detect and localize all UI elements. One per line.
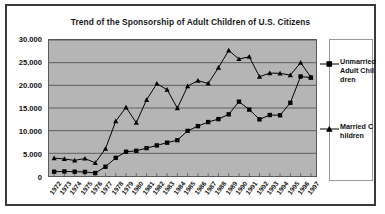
legend-marker-square-icon xyxy=(320,60,339,68)
data-point-marker xyxy=(83,170,87,174)
data-point-marker xyxy=(227,112,231,116)
data-point-marker xyxy=(257,117,261,121)
legend-label: Unmarried Adult Children xyxy=(340,57,376,85)
data-point-marker xyxy=(165,87,170,92)
data-point-marker xyxy=(93,171,97,175)
data-point-marker xyxy=(103,146,108,151)
data-point-marker xyxy=(226,48,231,53)
legend-label: Married Children xyxy=(340,122,376,140)
data-point-marker xyxy=(216,117,220,121)
y-tick-label: 5.000 xyxy=(23,150,42,159)
data-point-marker xyxy=(288,101,292,105)
y-tick-label: 30.000 xyxy=(19,35,42,44)
data-point-marker xyxy=(62,169,66,173)
data-point-marker xyxy=(185,129,189,133)
data-point-marker xyxy=(154,81,159,86)
series-line-married-children xyxy=(54,50,311,162)
data-point-marker xyxy=(195,78,200,83)
data-point-marker xyxy=(124,150,128,154)
y-tick-label: 10.000 xyxy=(19,127,42,136)
data-series-layer xyxy=(49,40,316,176)
data-point-marker xyxy=(206,120,210,124)
data-point-marker xyxy=(247,107,251,111)
y-tick-label: 20.000 xyxy=(19,81,42,90)
series-line-unmarried-adult-children xyxy=(54,76,311,173)
data-point-marker xyxy=(165,141,169,145)
data-point-marker xyxy=(52,170,56,174)
chart-figure: Trend of the Sponsorship of Adult Childr… xyxy=(5,4,376,206)
data-point-marker xyxy=(196,124,200,128)
data-point-marker xyxy=(175,106,180,111)
data-point-marker xyxy=(144,146,148,150)
y-tick-label: 0 xyxy=(38,173,42,182)
chart-title: Trend of the Sponsorship of Adult Childr… xyxy=(7,17,374,27)
data-point-marker xyxy=(82,156,87,161)
data-point-marker xyxy=(268,113,272,117)
data-point-marker xyxy=(278,113,282,117)
data-point-marker xyxy=(185,84,190,89)
chart-legend: Unmarried Adult Children Married Childre… xyxy=(329,39,373,181)
data-point-marker xyxy=(103,165,107,169)
x-axis: 1972197319741975197619771978197919801981… xyxy=(48,178,317,208)
y-tick-label: 25.000 xyxy=(19,58,42,67)
data-point-marker xyxy=(298,60,303,65)
y-axis: 30.00025.00020.00015.00010.0005.0000 xyxy=(7,39,45,177)
data-point-marker xyxy=(134,149,138,153)
data-point-marker xyxy=(216,65,221,70)
data-point-marker xyxy=(72,170,76,174)
data-point-marker xyxy=(298,74,302,78)
y-tick-label: 15.000 xyxy=(19,104,42,113)
data-point-marker xyxy=(114,156,118,160)
legend-marker-triangle-icon xyxy=(320,125,339,133)
data-point-marker xyxy=(123,105,128,110)
plot-area xyxy=(48,39,317,177)
data-point-marker xyxy=(155,143,159,147)
data-point-marker xyxy=(175,138,179,142)
data-point-marker xyxy=(247,54,252,59)
data-point-marker xyxy=(237,99,241,103)
